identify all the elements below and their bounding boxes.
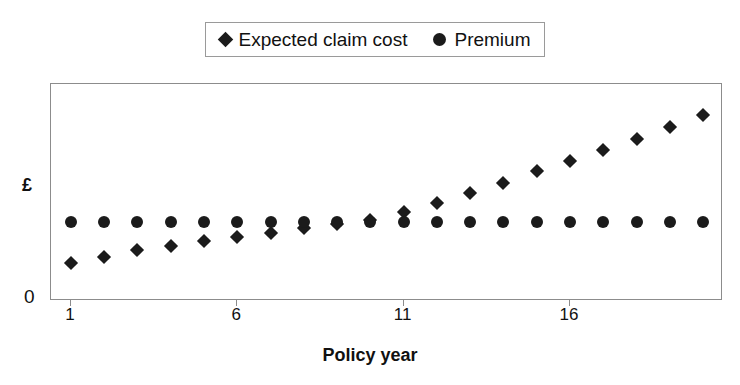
data-point-diamond xyxy=(563,154,577,168)
data-points-layer xyxy=(51,84,721,299)
data-point-diamond xyxy=(64,256,78,270)
x-axis-title: Policy year xyxy=(0,345,740,366)
data-point-circle xyxy=(331,216,343,228)
data-point-diamond xyxy=(164,239,178,253)
data-point-diamond xyxy=(696,108,710,122)
y-axis-label: £ xyxy=(22,175,32,196)
data-point-diamond xyxy=(463,185,477,199)
x-axis-tick-label: 6 xyxy=(232,305,241,325)
plot-area xyxy=(50,83,722,300)
data-point-circle xyxy=(564,216,576,228)
x-axis-tick-mark xyxy=(70,300,71,306)
data-point-circle xyxy=(497,216,509,228)
data-point-circle xyxy=(398,216,410,228)
data-point-circle xyxy=(231,216,243,228)
legend-entry-premium: Premium xyxy=(433,29,530,51)
data-point-diamond xyxy=(430,196,444,210)
data-point-circle xyxy=(697,216,709,228)
x-axis-tick-label: 11 xyxy=(394,305,412,325)
data-point-diamond xyxy=(130,243,144,257)
data-point-circle xyxy=(531,216,543,228)
circle-marker-icon xyxy=(433,33,446,46)
data-point-diamond xyxy=(97,249,111,263)
data-point-diamond xyxy=(629,132,643,146)
data-point-circle xyxy=(431,216,443,228)
legend-label-premium: Premium xyxy=(454,29,530,51)
data-point-circle xyxy=(98,216,110,228)
x-axis-tick-mark xyxy=(569,300,570,306)
data-point-circle xyxy=(364,216,376,228)
data-point-circle xyxy=(265,216,277,228)
diamond-marker-icon xyxy=(217,32,233,48)
data-point-circle xyxy=(165,216,177,228)
data-point-circle xyxy=(198,216,210,228)
data-point-circle xyxy=(664,216,676,228)
x-axis-tick-label: 1 xyxy=(65,305,74,325)
data-point-circle xyxy=(298,216,310,228)
data-point-diamond xyxy=(197,234,211,248)
data-point-diamond xyxy=(596,143,610,157)
x-axis-tick-label: 16 xyxy=(560,305,579,325)
data-point-diamond xyxy=(496,176,510,190)
data-point-diamond xyxy=(663,120,677,134)
x-axis-tick-mark xyxy=(403,300,404,306)
data-point-circle xyxy=(131,216,143,228)
chart-container: Expected claim cost Premium £ 0 161116 P… xyxy=(0,0,740,385)
data-point-circle xyxy=(65,216,77,228)
data-point-diamond xyxy=(530,164,544,178)
data-point-diamond xyxy=(230,230,244,244)
data-point-circle xyxy=(464,216,476,228)
y-axis-zero-tick-label: 0 xyxy=(24,286,35,308)
data-point-circle xyxy=(631,216,643,228)
chart-legend: Expected claim cost Premium xyxy=(205,22,545,57)
legend-entry-expected-claim-cost: Expected claim cost xyxy=(220,29,408,51)
x-axis-tick-mark xyxy=(236,300,237,306)
data-point-circle xyxy=(597,216,609,228)
legend-label-expected-claim-cost: Expected claim cost xyxy=(239,29,408,51)
